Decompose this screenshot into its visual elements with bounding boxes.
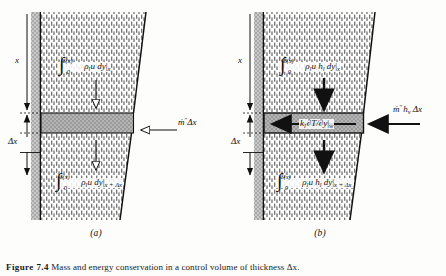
velocity-dy: u dy: [87, 177, 102, 187]
figure-container: ∫δ(x)0 ρlu dy|x ∫δ(x)0 ρlu dy|x + Δx ṁ″…: [0, 0, 446, 276]
x-dimension-label-a: x: [15, 55, 19, 65]
velocity-enthalpy: u h: [308, 177, 319, 187]
integral-upper-limit: δ(x): [280, 173, 290, 180]
delta-x-factor: Δx: [413, 104, 422, 114]
panel-b-diagram: [223, 0, 446, 240]
energy-flux-in-label-b: ∫δ(x)0 ρlu hl dy|x: [279, 62, 341, 72]
control-volume-a: [41, 113, 134, 133]
dy-term: dy: [325, 61, 336, 71]
side-mass-flux-label-a: ṁ″Δx: [178, 117, 197, 127]
panel-b-energy-balance: ∫δ(x)0 ρlu hl dy|x ∫δ(x)0 ρlu hl dy|x + …: [223, 0, 446, 240]
figure-caption-label: Figure 7.4: [6, 262, 49, 272]
wall-strip-a: [31, 12, 40, 220]
evaluation-point: x: [337, 65, 340, 72]
integral-lower-limit: 0: [64, 184, 67, 191]
velocity-enthalpy: u h: [311, 61, 322, 71]
integral-upper-limit: δ(x): [59, 173, 69, 180]
integral-lower-limit: 0: [67, 68, 70, 75]
integral-lower-limit: 0: [285, 184, 288, 191]
mass-flux-out-label-a: ∫δ(x)0 ρlu dy|x + Δx: [55, 178, 123, 188]
evaluation-point: x: [107, 65, 110, 72]
evaluation-point: x + Δx: [104, 181, 121, 188]
integral-upper-limit: δ(x): [62, 57, 72, 64]
sub-caption-b: (b): [300, 228, 340, 238]
wall-evaluation-point: w: [329, 122, 333, 129]
velocity-dy: u dy: [90, 61, 105, 71]
integral-lower-limit: 0: [288, 68, 291, 75]
conductivity-subscript: l: [304, 122, 306, 129]
wall-strip-b: [254, 12, 263, 220]
mass-flux-in-label-a: ∫δ(x)0 ρlu dy|x: [58, 62, 111, 72]
panel-a-mass-balance: ∫δ(x)0 ρlu dy|x ∫δ(x)0 ρlu dy|x + Δx ṁ″…: [0, 0, 223, 240]
figure-caption-text: Mass and energy conservation in a contro…: [51, 262, 299, 272]
integral-upper-limit: δ(x): [283, 57, 293, 64]
flux-double-prime: ″: [400, 103, 403, 110]
sub-caption-a: (a): [76, 228, 116, 238]
vapor-subscript: v: [408, 108, 411, 115]
dx-dimension-label-a: Δx: [8, 136, 17, 146]
side-enthalpy-flux-label-b: ṁ″hvΔx: [393, 104, 422, 115]
film-region-lower-a: [41, 133, 131, 220]
dx-dimension-label-b: Δx: [231, 136, 240, 146]
x-dimension-label-b: x: [238, 55, 242, 65]
delta-x-factor: Δx: [187, 117, 196, 127]
wall-heat-flux-label-b: kl∂T/∂y|w: [299, 119, 334, 129]
temperature-gradient: ∂T/∂y: [307, 118, 327, 128]
figure-caption: Figure 7.4 Mass and energy conservation …: [6, 262, 446, 272]
energy-flux-out-label-b: ∫δ(x)0 ρlu hl dy|x + Δx: [276, 178, 353, 188]
dy-term: dy: [322, 177, 333, 187]
evaluation-point: x + Δx: [334, 181, 351, 188]
